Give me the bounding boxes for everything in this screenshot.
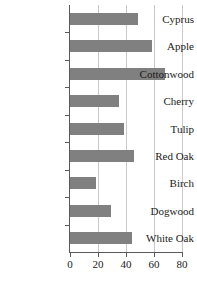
bar-chart: CyprusAppleCottonwoodCherryTulipRed OakB…: [0, 0, 197, 284]
x-axis-tick-label: 20: [93, 258, 104, 270]
x-axis-tick-label: 60: [149, 258, 160, 270]
x-axis-tick-label: 80: [177, 258, 188, 270]
x-axis-tick-label: 40: [121, 258, 132, 270]
x-axis-tick-label: 0: [67, 258, 73, 270]
x-axis-tick-labels: 020406080: [0, 0, 197, 284]
